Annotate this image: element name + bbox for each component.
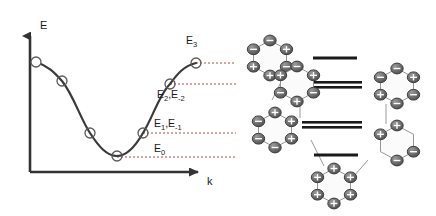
energy-level-bar-lower-b (302, 126, 362, 129)
energy-level-bar-bottom (314, 154, 358, 157)
state-marker (31, 57, 41, 67)
ring-connector (354, 160, 368, 176)
ring-connector (311, 140, 324, 166)
energy-level-bar-top (313, 57, 357, 60)
molecular-ring (374, 120, 419, 166)
level-label-E0: E0 (154, 142, 165, 157)
figure-canvas: E k E3 E2,E-2 E1,E-1 E0 (0, 0, 436, 216)
level-label-E3: E3 (186, 34, 197, 49)
level-label-E2: E2,E-2 (157, 88, 185, 103)
state-markers (31, 57, 201, 161)
x-axis-label: k (207, 175, 213, 187)
huckel-mo-diagram (247, 35, 419, 209)
figure-root: E k E3 E2,E-2 E1,E-1 E0 (0, 0, 436, 216)
band-dispersion-plot: E k E3 E2,E-2 E1,E-1 E0 (30, 19, 236, 187)
y-axis-label: E (40, 19, 47, 31)
level-label-E1: E1,E-1 (154, 117, 182, 132)
molecular-ring (374, 63, 419, 109)
molecular-ring (252, 107, 297, 153)
energy-level-bar-lower-a (302, 121, 362, 124)
molecular-ring (311, 163, 356, 209)
